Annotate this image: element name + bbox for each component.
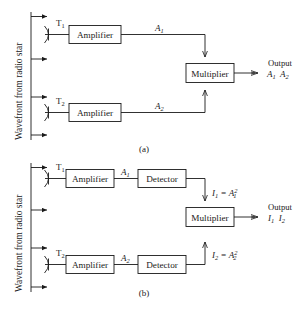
antenna-label-b-bottom: T2 xyxy=(56,248,65,259)
signal-path-b-top xyxy=(186,179,205,202)
amplifier-label-a-bottom: Amplifier xyxy=(77,108,113,118)
intensity-label-b-top: I1 = A21 xyxy=(211,187,238,200)
detector-label-b-top: Detector xyxy=(146,174,178,184)
signal-path-a-top xyxy=(121,35,205,58)
output-expression-a: A1 A2 xyxy=(266,69,290,80)
intensity-label-b-bottom: I2 = A22 xyxy=(211,249,238,262)
amplifier-label-a-top: Amplifier xyxy=(77,30,113,40)
output-expression-b: I1 I2 xyxy=(267,213,286,224)
caption-b: (b) xyxy=(139,288,150,298)
output-title-a: Output xyxy=(268,58,292,68)
multiplier-label-a: Multiplier xyxy=(191,69,228,79)
multiplier-label-b: Multiplier xyxy=(191,213,228,223)
amplifier-label-b-bottom: Amplifier xyxy=(72,260,108,270)
detector-label-b-bottom: Detector xyxy=(146,260,178,270)
signal-path-b-bottom xyxy=(186,242,205,265)
signal-label-b-top: A1 xyxy=(120,167,130,178)
wavefront-label-a: Wavefront from radio star xyxy=(14,42,24,140)
signal-label-a-top: A1 xyxy=(154,23,164,34)
antenna-label-a-bottom: T2 xyxy=(56,96,65,107)
panel-b: Amplifier Amplifier Detector Detector Mu… xyxy=(31,162,293,298)
signal-label-b-bottom: A2 xyxy=(120,253,131,264)
antenna-label-b-top: T1 xyxy=(56,162,65,173)
amplifier-label-b-top: Amplifier xyxy=(72,174,108,184)
wavefront-label-b: Wavefront from radio star xyxy=(14,194,24,292)
output-title-b: Output xyxy=(268,202,292,212)
panel-a: Amplifier Amplifier Multiplier T1 T2 A1 … xyxy=(31,12,293,154)
interferometer-figure: Amplifier Amplifier Multiplier T1 T2 A1 … xyxy=(0,0,305,311)
caption-a: (a) xyxy=(139,144,149,154)
diagram-canvas: Amplifier Amplifier Multiplier T1 T2 A1 … xyxy=(0,0,305,311)
antenna-label-a-top: T1 xyxy=(56,18,65,29)
signal-label-a-bottom: A2 xyxy=(154,101,165,112)
